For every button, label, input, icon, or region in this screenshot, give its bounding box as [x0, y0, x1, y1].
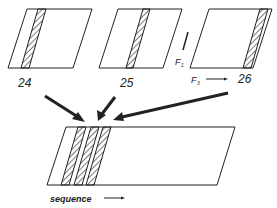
panel-label-25: 25 [119, 76, 134, 90]
diagram: 24 25 26 F 1 F 3 sequence [0, 0, 277, 208]
panel-24 [8, 9, 92, 68]
panel-26 [190, 9, 272, 68]
arrow-25-to-combined [97, 97, 115, 121]
f1-axis-line [183, 32, 188, 50]
f1-subscript: 1 [181, 62, 184, 68]
panel-25 [99, 9, 182, 68]
diagram-canvas: 24 25 26 F 1 F 3 sequence [0, 0, 277, 208]
sequence-label: sequence [50, 194, 92, 204]
f3-subscript: 3 [197, 80, 200, 86]
arrow-24-to-combined [45, 96, 85, 122]
panel-label-24: 24 [17, 76, 32, 90]
combined-panel [47, 127, 235, 185]
sequence-arrow-icon [104, 197, 125, 200]
f3-arrow-icon [206, 78, 228, 81]
panel-label-26: 26 [237, 72, 252, 86]
arrow-26-to-combined [113, 93, 228, 121]
